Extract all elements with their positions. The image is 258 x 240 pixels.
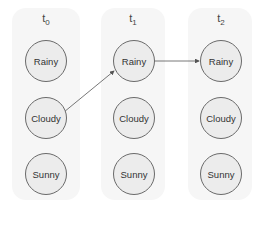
- state-node-t1-cloudy: Cloudy: [113, 97, 155, 139]
- edge-t0-cloudy-to-t1-rainy: [64, 71, 114, 112]
- state-node-t1-rainy: Rainy: [113, 40, 155, 82]
- state-node-t2-cloudy: Cloudy: [200, 97, 242, 139]
- state-node-t1-sunny: Sunny: [113, 153, 155, 195]
- state-node-t0-sunny: Sunny: [25, 153, 67, 195]
- state-node-t0-cloudy: Cloudy: [25, 97, 67, 139]
- state-node-t2-rainy: Rainy: [200, 40, 242, 82]
- state-node-t0-rainy: Rainy: [25, 40, 67, 82]
- state-node-t2-sunny: Sunny: [200, 153, 242, 195]
